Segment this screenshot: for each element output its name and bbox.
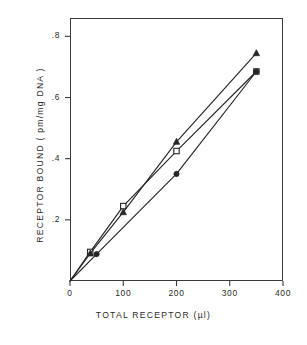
series-open-square (70, 69, 259, 281)
y-axis-title: RECEPTOR BOUND ( pm/mg DNA ) (35, 30, 45, 280)
x-tick-label: 100 (108, 288, 138, 298)
x-tick-label: 0 (55, 288, 85, 298)
series-filled-triangle (70, 50, 260, 281)
x-axis-title: TOTAL RECEPTOR (µl) (0, 310, 307, 320)
figure-caption-partial (0, 338, 307, 345)
x-tick-label: 300 (215, 288, 245, 298)
figure-container: .2.4.6.8 0100200300400 RECEPTOR BOUND ( … (0, 0, 307, 345)
series-filled-circle (70, 69, 259, 281)
chart-canvas (0, 0, 307, 345)
x-tick-label: 400 (268, 288, 298, 298)
x-axis-ticks (70, 281, 283, 286)
data-series-layer (70, 50, 260, 281)
y-axis-ticks (65, 36, 70, 219)
x-tick-label: 200 (162, 288, 192, 298)
